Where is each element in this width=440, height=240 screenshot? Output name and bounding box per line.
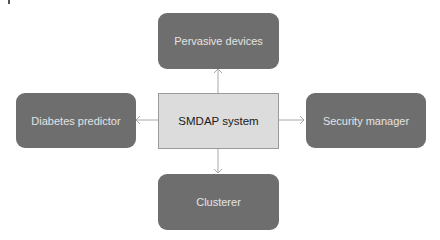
node-pervasive-devices: Pervasive devices: [158, 13, 279, 69]
node-label: Security manager: [323, 115, 409, 127]
node-label: Diabetes predictor: [31, 115, 120, 127]
node-security-manager: Security manager: [306, 93, 426, 148]
node-label: Pervasive devices: [174, 35, 263, 47]
node-label: SMDAP system: [178, 115, 258, 127]
node-label: Clusterer: [196, 196, 241, 208]
node-diabetes-predictor: Diabetes predictor: [16, 93, 136, 148]
node-smdap-system: SMDAP system: [158, 93, 279, 149]
node-clusterer: Clusterer: [158, 174, 279, 230]
